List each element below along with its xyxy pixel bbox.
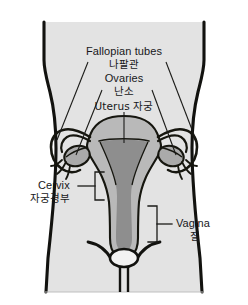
vaginal-introitus bbox=[110, 249, 138, 267]
label-fallopian-tubes-ko: 나팔관 bbox=[109, 58, 139, 71]
label-vagina-en: Vagina bbox=[176, 217, 210, 230]
label-ovaries-en: Ovaries bbox=[105, 72, 144, 85]
label-fallopian-tubes-en: Fallopian tubes bbox=[86, 45, 162, 58]
label-ovaries-ko: 난소 bbox=[114, 85, 134, 98]
label-cervix-ko: 자궁경부 bbox=[30, 192, 70, 205]
diagram-page: Fallopian tubes 나팔관 Ovaries 난소 Uterus 자궁… bbox=[0, 0, 248, 305]
label-cervix-en: Cervix bbox=[38, 179, 70, 192]
vaginal-canal bbox=[117, 196, 131, 251]
label-uterus: Uterus 자궁 bbox=[95, 100, 154, 113]
label-vagina-ko: 질 bbox=[190, 230, 200, 243]
